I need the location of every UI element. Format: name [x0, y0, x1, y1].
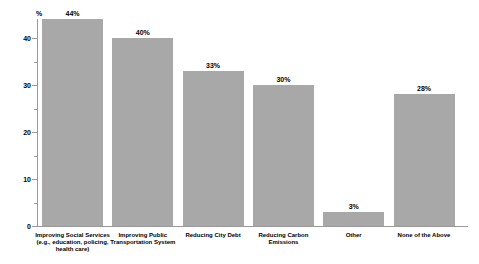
- y-axis-minor-tick: [34, 203, 37, 204]
- y-axis-unit-label: %: [36, 10, 42, 18]
- y-axis-major-tick: [32, 226, 37, 227]
- y-axis-major-tick: [32, 38, 37, 39]
- bar-value-label: 44%: [51, 9, 95, 18]
- y-axis-tick-label: 30: [0, 81, 31, 90]
- y-axis-tick-label: 40: [0, 34, 31, 43]
- bar: [253, 85, 314, 226]
- bar: [42, 19, 103, 226]
- bar-value-label: 28%: [402, 84, 446, 93]
- bar-value-label: 33%: [191, 61, 235, 70]
- bar: [323, 212, 384, 226]
- x-axis-line: [37, 226, 468, 227]
- y-axis-major-tick: [32, 132, 37, 133]
- bar: [183, 71, 244, 226]
- bar: [394, 94, 455, 226]
- y-axis-minor-tick: [34, 62, 37, 63]
- y-axis-major-tick: [32, 85, 37, 86]
- bar-value-label: 30%: [261, 75, 305, 84]
- y-axis-minor-tick: [34, 109, 37, 110]
- bar: [112, 38, 173, 226]
- bar-value-label: 40%: [121, 28, 165, 37]
- y-axis-major-tick: [32, 179, 37, 180]
- bar-value-label: 3%: [332, 202, 376, 211]
- category-label: None of the Above: [381, 232, 467, 239]
- y-axis-tick-label: 0: [0, 222, 31, 231]
- y-axis-line: [37, 19, 38, 227]
- y-axis-tick-label: 10: [0, 175, 31, 184]
- y-axis-tick-label: 20: [0, 128, 31, 137]
- y-axis-minor-tick: [34, 156, 37, 157]
- bar-chart: % 010203040 44%Improving Social Services…: [0, 0, 479, 264]
